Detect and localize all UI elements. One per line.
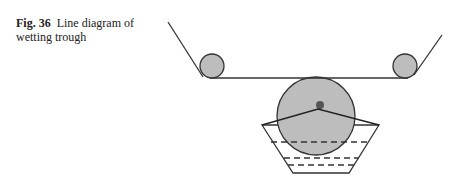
left-guide-roller bbox=[200, 54, 224, 78]
right-guide-roller bbox=[393, 54, 417, 78]
fabric-exit-line bbox=[414, 35, 442, 75]
fabric-entry-line bbox=[168, 22, 203, 77]
roller-hub bbox=[316, 101, 324, 109]
wetting-trough-diagram bbox=[0, 0, 458, 183]
